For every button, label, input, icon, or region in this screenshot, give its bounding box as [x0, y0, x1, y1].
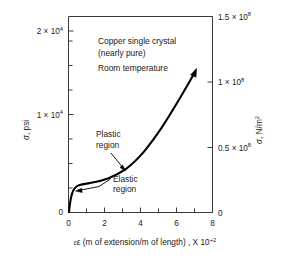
right-tick-label-05e8: 0.5 × 108 — [218, 142, 251, 152]
x-tick-label-4: 4 — [138, 219, 143, 228]
left-tick-label-0: 0 — [58, 208, 63, 217]
x-tick-label-2: 2 — [102, 219, 107, 228]
note-material-line2: (nearly pure) — [98, 48, 146, 58]
right-tick-label-15e8: 1.5 × 108 — [218, 11, 251, 21]
x-axis-title: εε (m of extension/m of length) , X 10+2 — [74, 237, 217, 247]
plastic-region-annotation: Plastic region — [96, 129, 126, 171]
left-axis-tick-labels: 0 1 × 104 2 × 104 — [37, 26, 64, 217]
plastic-region-label-line2: region — [96, 140, 120, 150]
left-tick-label-2e4: 2 × 104 — [37, 26, 64, 36]
left-axis-title: σ, psi — [21, 120, 31, 140]
x-tick-label-6: 6 — [174, 219, 179, 228]
right-tick-label-0: 0 — [218, 209, 223, 218]
note-condition: Room temperature — [98, 63, 168, 73]
x-axis-tick-labels: 0 2 4 6 8 — [66, 219, 215, 228]
elastic-region-label-line1: Elastic — [113, 174, 138, 184]
curve-endpoint-arrowhead — [191, 69, 197, 78]
elastic-region-arrowhead — [76, 188, 83, 192]
chart-canvas: 0 1 × 104 2 × 104 0 0.5 × 108 1 × 108 1.… — [0, 0, 291, 259]
material-condition-note: Copper single crystal (nearly pure) Room… — [98, 36, 176, 73]
x-tick-label-8: 8 — [210, 219, 215, 228]
right-axis-tick-labels: 0 0.5 × 108 1 × 108 1.5 × 108 — [218, 11, 251, 217]
right-tick-label-1e8: 1 × 108 — [218, 77, 244, 87]
plastic-region-label-line1: Plastic — [96, 129, 121, 139]
x-axis-ticks — [69, 208, 213, 213]
right-axis-title: σ, N/m2 — [254, 116, 264, 144]
left-tick-label-1e4: 1 × 104 — [37, 109, 64, 119]
x-tick-label-0: 0 — [66, 219, 71, 228]
left-axis-ticks — [69, 31, 74, 213]
stress-strain-chart-figure: 0 1 × 104 2 × 104 0 0.5 × 108 1 × 108 1.… — [0, 0, 291, 259]
elastic-region-label-line2: region — [113, 184, 137, 194]
right-axis-ticks — [208, 17, 213, 213]
note-material-line1: Copper single crystal — [98, 36, 176, 46]
